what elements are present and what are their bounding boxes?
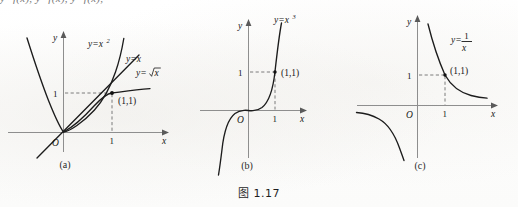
panel-a-plot: 1 1 O x y (1,1) y=x 2 y=x y= x [2, 24, 177, 156]
fraction-denominator-c: x [461, 43, 467, 53]
curve-label-y-equals-x: y=x [125, 54, 142, 64]
x-axis-label-a: x [161, 136, 167, 146]
panel-c: 1 1 O x y (1,1) y= 1 x (c) [355, 12, 515, 164]
y-axis-arrow-b [246, 19, 252, 26]
curve-one-over-x-negative-branch [357, 113, 405, 161]
fraction-numerator-c: 1 [464, 31, 469, 41]
panel-caption-c: (c) [400, 160, 440, 171]
x-tick-label-b: 1 [273, 114, 278, 124]
point-marker-c [443, 73, 446, 76]
curve-label-a2-base: y= [135, 68, 147, 78]
panel-caption-a: (a) [45, 159, 85, 170]
x-axis-arrow-a [162, 130, 169, 136]
panel-a: 1 1 O x y (1,1) y=x 2 y=x y= x (a) [2, 24, 177, 156]
point-label-b: (1,1) [281, 68, 299, 79]
x-axis-arrow-b [300, 108, 307, 114]
point-marker-b [273, 70, 276, 73]
curve-label-a1-base: y=x [125, 54, 142, 64]
y-tick-label-c: 1 [407, 71, 412, 81]
figure-page: y=f(x), y=f(x), y=f(x), 1 1 O x [0, 0, 518, 207]
y-tick-label-a: 1 [53, 89, 58, 99]
point-label-c: (1,1) [450, 66, 468, 77]
y-tick-label-b: 1 [238, 68, 243, 78]
cropped-text-fragment: y=f(x), y=f(x), y=f(x), [0, 0, 132, 9]
y-axis-arrow-c [415, 15, 421, 22]
point-label-a: (1,1) [118, 96, 136, 107]
curve-label-y-equals-sqrt-x: y= x [135, 68, 161, 78]
origin-label-b: O [237, 115, 244, 125]
x-axis-arrow-c [491, 103, 498, 109]
origin-label-c: O [406, 110, 413, 120]
curve-label-y-equals-one-over-x: y= 1 x [450, 31, 472, 54]
cropped-text: y=f(x), y=f(x), y=f(x), [0, 0, 103, 4]
panel-caption-b: (b) [227, 160, 267, 171]
curve-label-y-equals-x-cubed: y=x 3 [273, 13, 296, 26]
figure-caption: 图 1.17 [0, 184, 518, 200]
curve-label-a0-base: y=x [87, 39, 104, 49]
curve-label-a0-sup: 2 [107, 37, 111, 44]
curve-label-b0-sup: 3 [292, 13, 296, 20]
curve-label-b0-base: y=x [273, 15, 290, 25]
y-axis-arrow-a [61, 31, 67, 38]
x-axis-label-c: x [490, 109, 496, 119]
y-axis-label-b: y [237, 21, 243, 31]
x-tick-label-a: 1 [110, 136, 115, 146]
panel-b-plot: 1 1 O x y (1,1) y=x 3 [196, 12, 336, 162]
panel-b: 1 1 O x y (1,1) y=x 3 (b) [196, 12, 336, 162]
curve-y-equals-x-cubed [219, 23, 282, 175]
y-axis-label-a: y [52, 33, 58, 43]
curve-label-c0-base: y= [450, 35, 462, 45]
x-axis-label-b: x [299, 114, 305, 124]
curve-label-y-equals-x-squared: y=x 2 [87, 37, 111, 50]
curve-label-a2-radicand: x [154, 68, 160, 78]
y-axis-label-c: y [406, 17, 412, 27]
origin-label-a: O [52, 138, 59, 148]
point-marker-a [110, 91, 114, 95]
panel-c-plot: 1 1 O x y (1,1) y= 1 x [355, 12, 515, 164]
x-tick-label-c: 1 [443, 109, 448, 119]
